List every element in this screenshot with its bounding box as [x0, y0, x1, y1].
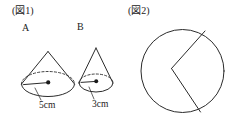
figure2-caption: (図2) — [128, 6, 150, 16]
cone-b-radius-line — [81, 81, 96, 82]
cone-b-base-front-arc — [79, 83, 113, 92]
cone-a-drawing — [22, 52, 75, 101]
cone-a-name-label: A — [22, 23, 29, 33]
cone-b-left-slant — [79, 48, 96, 83]
cone-b-name-label: B — [77, 22, 84, 32]
cone-b-leader-line — [89, 87, 94, 99]
cone-a-radius-line — [24, 83, 49, 85]
figure1-caption: (図1) — [12, 6, 34, 16]
cone-a-center-point — [46, 80, 50, 84]
cone-a-base-front-arc — [22, 84, 75, 97]
circle-wedge-drawing — [141, 30, 224, 113]
cone-a-right-slant — [48, 52, 75, 85]
cone-a-leader-line — [35, 88, 41, 100]
figure2-upper-chord — [172, 31, 206, 69]
cone-b-radius-label: 3cm — [92, 100, 108, 110]
figure2-lower-chord — [172, 69, 201, 113]
cone-b-right-slant — [96, 48, 113, 83]
cone-b-drawing — [79, 48, 113, 99]
cone-a-radius-label: 5cm — [39, 101, 55, 111]
cone-b-center-point — [94, 79, 98, 83]
figure2-circle — [141, 30, 224, 113]
diagram-canvas — [0, 0, 234, 119]
cone-a-left-slant — [22, 52, 49, 85]
figure-sheet: (図1) (図2) A B 5cm 3cm — [0, 0, 234, 119]
